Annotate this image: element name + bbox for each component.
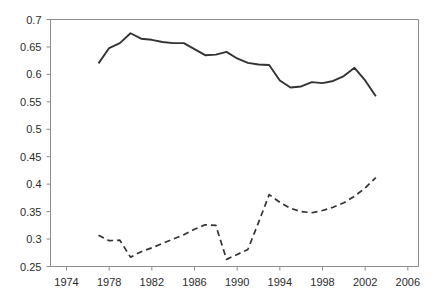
x-tick-label: 1982	[140, 277, 164, 288]
y-tick-label: 0.4	[0, 179, 42, 190]
y-tick-label: 0.65	[0, 41, 42, 52]
y-tick-label: 0.45	[0, 151, 42, 162]
x-axis-ticks	[67, 267, 408, 271]
chart-container: 0.250.30.350.40.450.50.550.60.650.7 1974…	[0, 0, 446, 296]
x-tick-label: 2006	[396, 277, 420, 288]
y-axis-ticks	[47, 20, 51, 267]
y-tick-label: 0.3	[0, 234, 42, 245]
y-tick-label: 0.6	[0, 69, 42, 80]
x-tick-label: 1978	[97, 277, 121, 288]
y-tick-label: 0.55	[0, 96, 42, 107]
x-tick-label: 1974	[54, 277, 78, 288]
x-tick-label: 2002	[353, 277, 377, 288]
series-line-solid-series	[99, 33, 376, 96]
x-tick-label: 1990	[225, 277, 249, 288]
x-tick-label: 1998	[310, 277, 334, 288]
chart-plot-area	[0, 0, 446, 296]
y-tick-label: 0.25	[0, 261, 42, 272]
y-tick-label: 0.7	[0, 14, 42, 25]
y-tick-label: 0.35	[0, 206, 42, 217]
x-tick-label: 1994	[268, 277, 292, 288]
x-tick-label: 1986	[182, 277, 206, 288]
y-tick-label: 0.5	[0, 124, 42, 135]
series-line-dashed-series	[99, 178, 376, 260]
